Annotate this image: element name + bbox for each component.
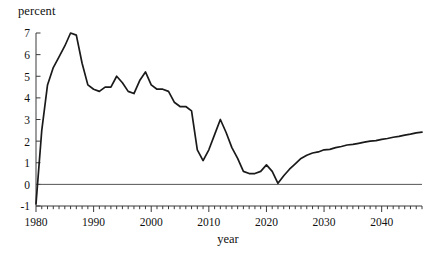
y-axis-label: percent (18, 4, 55, 19)
x-axis: 1980199020002010202020302040 (25, 206, 423, 228)
svg-text:0: 0 (24, 179, 30, 191)
svg-text:3: 3 (24, 114, 30, 126)
svg-text:2: 2 (24, 136, 30, 148)
svg-text:2020: 2020 (255, 216, 278, 228)
svg-text:7: 7 (24, 27, 30, 39)
svg-text:6: 6 (24, 49, 30, 61)
svg-text:1980: 1980 (25, 216, 48, 228)
line-chart-plot: -101234567 1980199020002010202020302040 (0, 0, 432, 265)
svg-text:5: 5 (24, 71, 30, 83)
svg-text:1990: 1990 (82, 216, 105, 228)
data-series-line (36, 33, 422, 204)
svg-text:1: 1 (24, 157, 30, 169)
svg-text:2040: 2040 (370, 216, 393, 228)
chart-figure: percent -101234567 198019902000201020202… (0, 0, 432, 265)
svg-text:-1: -1 (20, 200, 30, 212)
svg-text:4: 4 (24, 92, 30, 104)
x-axis-label: year (0, 232, 432, 247)
svg-text:2030: 2030 (313, 216, 336, 228)
svg-text:2010: 2010 (197, 216, 220, 228)
svg-text:2000: 2000 (140, 216, 163, 228)
